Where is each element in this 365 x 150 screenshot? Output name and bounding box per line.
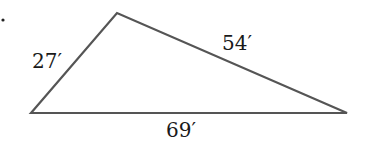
bullet-dot <box>1 18 4 21</box>
side-label-top-right: 54′ <box>222 31 252 55</box>
triangle-diagram: 27′ 54′ 69′ <box>0 0 365 150</box>
triangle-shape <box>31 13 347 113</box>
side-label-bottom: 69′ <box>166 118 196 142</box>
side-label-left: 27′ <box>32 49 62 73</box>
